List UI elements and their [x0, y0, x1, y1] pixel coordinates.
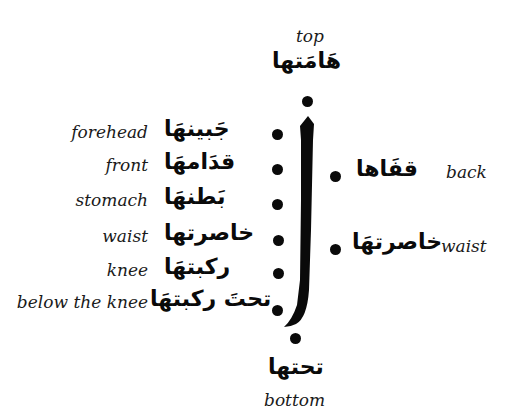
label-waist-right-english: waist [441, 236, 487, 256]
alif-positions-diagram: top هَامَتها forehead جَبينهَا front قدَ… [0, 0, 518, 418]
label-forehead-arabic: جَبينهَا [164, 116, 230, 142]
label-front-arabic: قدَامهَا [164, 149, 235, 175]
dot-waist-right [330, 244, 341, 255]
label-stomach-arabic: بَطنهَا [164, 184, 225, 210]
label-bottom-english: bottom [264, 390, 325, 410]
label-waist-right-arabic: خاصرتهَا [352, 229, 442, 255]
dot-below-knee [272, 305, 283, 316]
label-waist-left-english: waist [0, 226, 148, 246]
label-back-english: back [446, 162, 487, 182]
dot-front [272, 164, 283, 175]
dot-waist-left [273, 235, 284, 246]
label-knee-arabic: ركبتهَا [164, 254, 230, 280]
dot-knee [273, 268, 284, 279]
label-forehead-english: forehead [0, 122, 148, 142]
dot-stomach [272, 199, 283, 210]
label-below-knee-arabic: تحتَ ركبتهَا [150, 286, 271, 312]
label-waist-left-arabic: خاصرتها [164, 220, 254, 246]
label-stomach-english: stomach [0, 190, 148, 210]
label-knee-english: knee [0, 260, 148, 280]
label-back-arabic: قفَاها [356, 156, 418, 182]
dot-forehead [272, 129, 283, 140]
dot-back [330, 171, 341, 182]
dot-bottom [290, 333, 301, 344]
label-bottom-arabic: تحتها [268, 354, 324, 380]
label-front-english: front [0, 155, 148, 175]
label-below-knee-english: below the knee [0, 292, 148, 312]
